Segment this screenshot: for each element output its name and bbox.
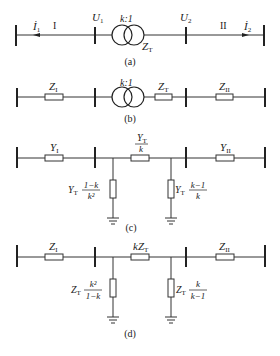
diagram-a: İ1 I U1 k:1 ZT U2 II İ2 (a) bbox=[16, 11, 264, 68]
label-current-1: İ1 bbox=[32, 20, 41, 34]
label-zi: ZI bbox=[49, 240, 58, 254]
shunt-left-admittance-icon bbox=[110, 180, 116, 198]
impedance-zt-icon bbox=[155, 94, 172, 100]
ground-left-icon bbox=[107, 218, 119, 224]
caption-d: (d) bbox=[124, 328, 136, 340]
label-zt: ZT bbox=[158, 80, 169, 94]
diagram-d: ZI kZT ZII ZT k² 1−k ZT k k−1 (d) bbox=[17, 240, 265, 340]
svg-text:1−k: 1−k bbox=[86, 291, 102, 301]
admittance-yii-icon bbox=[216, 155, 234, 161]
label-zii: ZII bbox=[219, 240, 230, 254]
label-zi: ZI bbox=[49, 80, 58, 94]
svg-text:k²: k² bbox=[90, 279, 97, 289]
label-shunt-left: ZT k² 1−k bbox=[71, 279, 102, 301]
label-shunt-right: YT k−1 k bbox=[175, 180, 207, 201]
admittance-yi-icon bbox=[45, 155, 63, 161]
impedance-zii-icon bbox=[216, 94, 233, 100]
shunt-right-impedance-icon bbox=[168, 279, 174, 297]
svg-text:YT: YT bbox=[175, 184, 186, 197]
label-section-2: II bbox=[220, 20, 227, 31]
label-voltage-2: U2 bbox=[180, 11, 192, 25]
svg-text:k−1: k−1 bbox=[191, 180, 206, 190]
label-shunt-right: ZT k k−1 bbox=[176, 279, 207, 301]
svg-text:k−1: k−1 bbox=[191, 291, 206, 301]
impedance-zii-icon bbox=[216, 254, 234, 260]
svg-text:ZT: ZT bbox=[176, 284, 187, 297]
ideal-transformer-secondary-icon bbox=[124, 87, 144, 107]
shunt-right-admittance-icon bbox=[168, 180, 174, 198]
caption-c: (c) bbox=[125, 222, 136, 234]
label-series-fraction: YT k bbox=[135, 132, 148, 154]
svg-text:YT: YT bbox=[68, 184, 79, 197]
svg-text:ZT: ZT bbox=[71, 284, 82, 297]
ideal-transformer-primary-icon bbox=[112, 87, 132, 107]
impedance-series-icon bbox=[131, 254, 149, 260]
diagram-c: YI YT k YII YT 1−k k² YT k−1 k (c) bbox=[17, 132, 265, 234]
label-yii: YII bbox=[220, 141, 231, 155]
ground-left-icon bbox=[107, 317, 119, 323]
label-current-2: İ2 bbox=[243, 20, 252, 34]
svg-text:k: k bbox=[139, 144, 144, 154]
diagram-b: ZI k:1 ZT ZII (b) bbox=[17, 77, 265, 125]
label-yi: YI bbox=[50, 141, 59, 155]
ground-right-icon bbox=[165, 317, 177, 323]
label-ratio: k:1 bbox=[120, 13, 133, 24]
admittance-series-icon bbox=[131, 155, 149, 161]
impedance-zi-icon bbox=[45, 94, 63, 100]
label-section-1: I bbox=[53, 20, 56, 31]
label-shunt-left: YT 1−k k² bbox=[68, 180, 100, 201]
svg-text:1−k: 1−k bbox=[84, 180, 100, 190]
shunt-left-impedance-icon bbox=[110, 279, 116, 297]
ground-right-icon bbox=[165, 218, 177, 224]
label-ratio: k:1 bbox=[120, 77, 133, 88]
svg-text:k: k bbox=[196, 279, 201, 289]
caption-b: (b) bbox=[124, 113, 136, 125]
svg-text:k²: k² bbox=[88, 191, 95, 201]
svg-text:k: k bbox=[196, 191, 201, 201]
transformer-primary-coil-icon bbox=[112, 25, 132, 45]
caption-a: (a) bbox=[124, 56, 135, 68]
label-voltage-1: U1 bbox=[92, 11, 104, 25]
transformer-equivalent-circuits: İ1 I U1 k:1 ZT U2 II İ2 (a) ZI k:1 ZT ZI… bbox=[0, 0, 280, 356]
impedance-zi-icon bbox=[45, 254, 63, 260]
label-series: kZT bbox=[133, 240, 149, 254]
transformer-secondary-coil-icon bbox=[124, 25, 144, 45]
label-zii: ZII bbox=[219, 80, 230, 94]
label-zt: ZT bbox=[142, 40, 153, 54]
